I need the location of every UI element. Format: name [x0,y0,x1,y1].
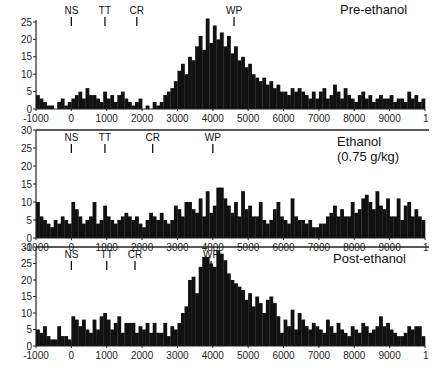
x-tick-label: 2000 [131,113,154,124]
histogram-bar [43,102,47,109]
histogram-bar [107,99,111,109]
histogram-bar [358,209,362,238]
histogram-bar [344,216,348,238]
histogram-bar [358,95,362,109]
histogram-bar [223,46,227,109]
histogram-bar [322,88,326,109]
y-ticks: 051015202530 [21,125,36,244]
histogram-bar [167,92,171,109]
histogram-bar [252,74,256,109]
event-marker-label-tt: TT [99,132,111,143]
histogram-bar [110,220,114,238]
histogram-bar [82,99,86,109]
x-tick-label: -1000 [23,113,49,124]
histogram-bar [100,102,104,109]
histogram-bar [326,99,330,109]
histogram-bar [393,216,397,238]
histogram-bar [223,260,227,346]
y-tick-label: 5 [26,86,32,97]
histogram-bar [312,323,316,346]
histogram-bar [245,209,249,238]
histogram-bar [149,213,153,238]
histogram-bar [266,224,270,238]
histogram-bar [78,216,82,238]
histogram-bar [372,330,376,347]
histogram-bar [40,99,44,109]
histogram-bar [361,323,365,346]
histogram-bar [213,267,217,346]
histogram-bar [397,99,401,109]
histogram-bar [308,330,312,347]
histogram-bar [340,330,344,347]
x-tick-label: 0 [69,350,75,361]
y-tick-label: 10 [21,308,33,319]
y-tick-label: 15 [21,291,33,302]
histogram-bar [333,206,337,238]
y-tick-label: 25 [21,143,33,154]
event-marker-label-wp: WP [205,132,221,143]
histogram-bar [330,326,334,346]
histogram-bar [86,330,90,347]
histogram-bar [255,78,259,109]
histogram-bar [153,323,157,346]
histogram-bar [344,88,348,109]
histogram-bar [82,320,86,346]
histogram-bar [347,336,351,346]
histogram-bar [287,95,291,109]
histogram-bar [379,95,383,109]
histogram-bar [418,326,422,346]
x-tick-label: 1 [423,113,429,124]
histogram-bar [248,206,252,238]
histogram-bar [174,330,178,347]
histogram-bar [238,287,242,346]
x-ticks: -100001000200030004000500060007000800090… [23,109,429,124]
histogram-bar [294,330,298,347]
y-tick-label: 25 [21,17,33,28]
histogram-bar [358,333,362,346]
histogram-bar [174,81,178,109]
histogram-bar [308,220,312,238]
histogram-bar [269,220,273,238]
histogram-bar [93,320,97,346]
histogram-bar [181,64,185,109]
x-tick-label: 3000 [166,350,189,361]
histogram-bar [57,102,61,109]
histogram-bar [93,95,97,109]
histogram-bar [110,95,114,109]
histogram-bar [195,293,199,346]
histogram-bar [114,323,118,346]
x-tick-label: 1000 [96,113,119,124]
histogram-bar [404,102,408,109]
peri-event-histogram-figure: 0510152025-10000100020003000400050006000… [0,0,437,381]
histogram-bar [269,81,273,109]
histogram-bar [315,326,319,346]
histogram-bar [238,216,242,238]
x-tick-label: 0 [69,113,75,124]
histogram-bar [195,46,199,109]
histogram-bar [100,316,104,346]
histogram-bar [407,202,411,238]
histogram-bar [383,99,387,109]
histogram-bar [301,220,305,238]
histogram-bar [347,95,351,109]
histogram-bar [351,326,355,346]
histogram-bar [156,220,160,238]
event-marker-label-ns: NS [64,132,78,143]
histogram-bar [78,326,82,346]
histogram-bar [255,297,259,347]
histogram-bar [305,95,309,109]
histogram-bar [383,326,387,346]
x-tick-label: 4000 [202,350,225,361]
histogram-bar [238,60,242,109]
histogram-bar [142,227,146,238]
histogram-bar [54,339,58,346]
histogram-bar [227,273,231,346]
y-ticks: 051015202530 [21,242,36,352]
histogram-bar [287,224,291,238]
histogram-bar [202,216,206,238]
histogram-bar [390,216,394,238]
histogram-bar [365,326,369,346]
histogram-bar [294,92,298,109]
histogram-bar [216,250,220,346]
x-tick-label: 2000 [131,350,154,361]
